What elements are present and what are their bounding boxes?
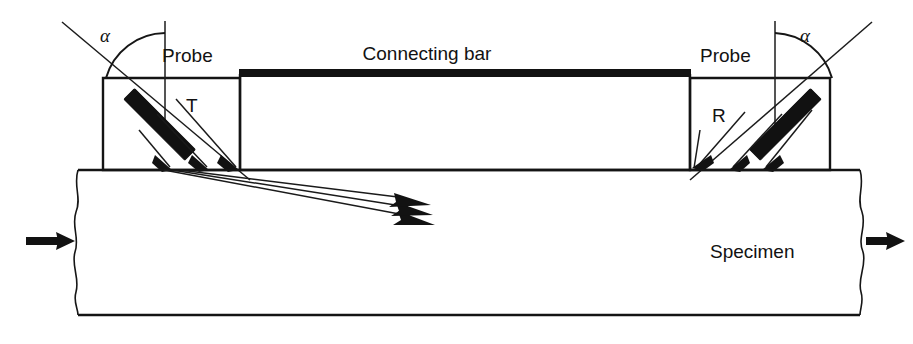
connecting-bar-group [239, 69, 691, 170]
load-arrow-left [26, 232, 75, 250]
specimen-left-torn-edge [74, 170, 78, 315]
probe-specimen-diagram: Probe T α Probe R [0, 0, 913, 344]
probe-left-housing [103, 78, 240, 170]
probe-right-group: Probe R α [690, 21, 872, 180]
transmitter-label: T [186, 95, 198, 116]
specimen-right-torn-edge [860, 170, 864, 315]
load-arrow-right [866, 232, 905, 250]
probe-left-group: Probe T α [62, 21, 250, 180]
specimen-beam-paths [164, 170, 435, 225]
connecting-bar-top-edge [239, 69, 691, 77]
transducer-right [750, 89, 821, 160]
probe-left-label: Probe [162, 45, 213, 66]
probe-right-label: Probe [700, 45, 751, 66]
specimen-label: Specimen [710, 241, 795, 262]
connecting-bar-body [240, 74, 690, 170]
connecting-bar-label: Connecting bar [363, 43, 493, 64]
specimen-group: Specimen [74, 170, 864, 315]
specimen-beam-arrowhead-3 [389, 193, 431, 207]
angle-arc-left [106, 33, 165, 78]
receiver-label: R [712, 105, 726, 126]
diagram-root: Probe T α Probe R [0, 0, 913, 344]
angle-label-left: α [100, 25, 111, 46]
angle-label-right: α [800, 25, 811, 46]
